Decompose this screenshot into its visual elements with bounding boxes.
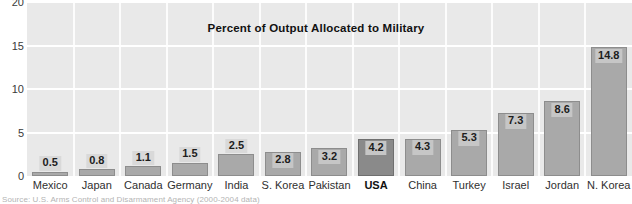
bar[interactable] bbox=[79, 169, 115, 176]
x-axis: MexicoJapanCanadaGermanyIndiaS. KoreaPak… bbox=[27, 178, 632, 192]
bar[interactable] bbox=[125, 166, 161, 176]
x-axis-tick-label: Israel bbox=[502, 178, 529, 192]
y-axis-tick-label: 20 bbox=[2, 0, 24, 8]
bar-value-label: 1.5 bbox=[179, 147, 200, 162]
chart-figure: 05101520 0.50.81.11.52.52.83.24.24.35.37… bbox=[0, 0, 632, 204]
bar-value-label: 5.3 bbox=[458, 131, 479, 146]
y-axis-tick-label: 5 bbox=[2, 127, 24, 138]
x-axis-tick-label: Turkey bbox=[453, 178, 486, 192]
x-axis-tick-label: Japan bbox=[82, 178, 112, 192]
bar[interactable] bbox=[172, 163, 208, 176]
bar-value-label: 14.8 bbox=[595, 49, 622, 64]
bar-value-label: 4.3 bbox=[412, 140, 433, 155]
x-axis-tick-label: Mexico bbox=[33, 178, 68, 192]
bar-value-label: 4.2 bbox=[365, 141, 386, 156]
bar-value-label: 1.1 bbox=[133, 151, 154, 166]
x-axis-tick-label: Germany bbox=[167, 178, 212, 192]
x-axis-tick-label: USA bbox=[364, 178, 387, 192]
bar-value-label: 0.8 bbox=[86, 154, 107, 169]
bar-value-label: 3.2 bbox=[319, 150, 340, 165]
y-axis-tick-label: 0 bbox=[2, 171, 24, 182]
x-axis-tick-label: N. Korea bbox=[587, 178, 630, 192]
x-axis-tick-label: S. Korea bbox=[262, 178, 305, 192]
y-axis-tick-label: 10 bbox=[2, 84, 24, 95]
x-axis-tick-label: Pakistan bbox=[308, 178, 350, 192]
x-axis-tick-label: China bbox=[408, 178, 437, 192]
x-axis-tick-label: India bbox=[224, 178, 248, 192]
bar[interactable] bbox=[591, 47, 627, 176]
bar-value-label: 8.6 bbox=[552, 103, 573, 118]
bar-value-label: 2.8 bbox=[272, 153, 293, 168]
bar[interactable] bbox=[218, 154, 254, 176]
bar[interactable] bbox=[32, 172, 68, 176]
bar-value-label: 7.3 bbox=[505, 114, 526, 129]
bar-value-label: 2.5 bbox=[226, 139, 247, 154]
source-note: Source: U.S. Arms Control and Disarmamen… bbox=[2, 195, 260, 204]
bar-value-label: 0.5 bbox=[40, 156, 61, 171]
x-axis-tick-label: Canada bbox=[124, 178, 163, 192]
y-axis-tick-label: 15 bbox=[2, 40, 24, 51]
chart-title: Percent of Output Allocated to Military bbox=[0, 22, 632, 34]
x-axis-tick-label: Jordan bbox=[545, 178, 579, 192]
